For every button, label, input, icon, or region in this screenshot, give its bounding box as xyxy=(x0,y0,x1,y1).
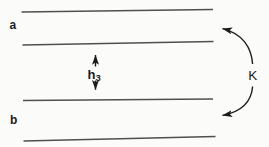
label-region-b: b xyxy=(10,113,17,127)
k-coupling-arrow: K xyxy=(223,29,258,116)
diagram: a b h3 K xyxy=(0,0,269,147)
diagram-canvas: a b h3 K xyxy=(0,0,269,147)
horizontal-line-2 xyxy=(23,42,214,46)
horizontal-line-4 xyxy=(24,137,216,142)
label-region-a: a xyxy=(10,18,17,32)
h3-dimension-arrow: h3 xyxy=(88,55,101,90)
horizontal-line-3 xyxy=(23,99,213,101)
horizontal-line-1 xyxy=(22,10,214,13)
curved-arrow-bottom-icon xyxy=(223,87,253,116)
label-h3-base: h xyxy=(88,67,96,82)
label-h3-subscript: 3 xyxy=(95,72,100,83)
label-k: K xyxy=(248,68,257,83)
curved-arrow-top-icon xyxy=(223,29,253,64)
label-h3: h3 xyxy=(88,67,101,84)
